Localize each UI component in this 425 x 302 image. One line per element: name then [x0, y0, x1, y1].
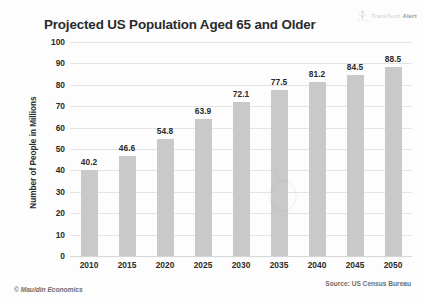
plot-area: 1009080706050403020100 40.246.654.863.97…	[70, 42, 412, 256]
bar-slot: 63.9	[184, 42, 222, 256]
y-axis-title: Number of People in Millions	[29, 73, 38, 233]
gridline-0: 0	[70, 256, 412, 257]
y-axis-tick: 0	[60, 251, 65, 261]
y-axis-tick: 70	[56, 101, 65, 111]
bar-value-label: 88.5	[385, 54, 401, 64]
logo-suffix: Alert	[402, 12, 417, 19]
bar-2030[interactable]: 72.1	[233, 102, 250, 256]
chart-screenshot: TransTech Alert Projected US Population …	[0, 0, 425, 302]
bar-slot: 84.5	[336, 42, 374, 256]
x-axis-tick-2010: 2010	[70, 260, 108, 270]
y-axis-tick: 30	[56, 187, 65, 197]
x-axis-tick-2040: 2040	[298, 260, 336, 270]
bar-value-label: 40.2	[81, 157, 97, 167]
y-axis-tick: 50	[56, 144, 65, 154]
bar-2015[interactable]: 46.6	[119, 156, 136, 256]
y-axis-tick: 100	[51, 37, 65, 47]
x-axis-tick-2020: 2020	[146, 260, 184, 270]
chart-title: Projected US Population Aged 65 and Olde…	[44, 17, 316, 32]
bar-slot: 88.5	[374, 42, 412, 256]
bar-slot: 81.2	[298, 42, 336, 256]
x-axis-tick-2030: 2030	[222, 260, 260, 270]
bar-slot: 72.1	[222, 42, 260, 256]
bar-2020[interactable]: 54.8	[157, 139, 174, 256]
bar-value-label: 84.5	[347, 62, 363, 72]
bar-value-label: 77.5	[271, 77, 287, 87]
bar-2040[interactable]: 81.2	[309, 82, 326, 256]
bar-value-label: 81.2	[309, 69, 325, 79]
y-axis-tick: 90	[56, 58, 65, 68]
bar-value-label: 54.8	[157, 126, 173, 136]
bar-slot: 46.6	[108, 42, 146, 256]
copyright-text: © Mauldin Economics	[14, 286, 83, 293]
bar-2010[interactable]: 40.2	[81, 170, 98, 256]
y-axis-tick: 60	[56, 123, 65, 133]
bar-series: 40.246.654.863.972.177.581.284.588.5	[70, 42, 412, 256]
bar-slot: 40.2	[70, 42, 108, 256]
y-axis-tick: 20	[56, 208, 65, 218]
bar-value-label: 72.1	[233, 89, 249, 99]
y-axis-tick: 40	[56, 165, 65, 175]
bar-2025[interactable]: 63.9	[195, 119, 212, 256]
bar-2045[interactable]: 84.5	[347, 75, 364, 256]
bar-value-label: 63.9	[195, 106, 211, 116]
logo-brand: TransTech	[371, 12, 401, 19]
bar-slot: 77.5	[260, 42, 298, 256]
logo-text: TransTech Alert	[371, 12, 417, 19]
y-axis-tick: 80	[56, 80, 65, 90]
transtech-alert-logo: TransTech Alert	[357, 9, 417, 22]
x-axis-tick-2025: 2025	[184, 260, 222, 270]
x-axis-tick-2015: 2015	[108, 260, 146, 270]
bar-value-label: 46.6	[119, 143, 135, 153]
bar-slot: 54.8	[146, 42, 184, 256]
transtech-logo-icon	[357, 9, 368, 22]
x-axis: 201020152020202520302035204020452050	[70, 260, 412, 270]
x-axis-tick-2035: 2035	[260, 260, 298, 270]
source-text: Source: US Census Bureau	[325, 280, 411, 287]
x-axis-tick-2050: 2050	[374, 260, 412, 270]
bar-2035[interactable]: 77.5	[271, 90, 288, 256]
x-axis-tick-2045: 2045	[336, 260, 374, 270]
bar-2050[interactable]: 88.5	[385, 67, 402, 256]
y-axis-tick: 10	[56, 230, 65, 240]
